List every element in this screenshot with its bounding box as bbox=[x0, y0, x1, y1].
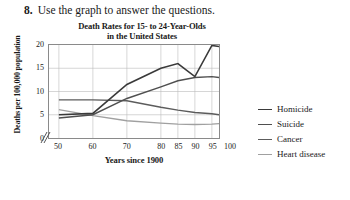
y-tick-label-5: 5 bbox=[22, 110, 44, 119]
legend-swatch-suicide bbox=[258, 124, 272, 125]
plot-area bbox=[48, 44, 220, 139]
worksheet-figure-page: 8.Use the graph to answer the questions.… bbox=[0, 0, 350, 200]
y-tick-label-15: 15 bbox=[22, 63, 44, 72]
legend-label-suicide: Suicide bbox=[277, 120, 304, 129]
x-axis-title: Years since 1900 bbox=[48, 155, 220, 165]
question-number: 8. bbox=[24, 4, 33, 16]
legend-label-cancer: Cancer bbox=[277, 135, 302, 144]
legend-label-homicide: Homicide bbox=[277, 105, 313, 114]
legend-swatch-cancer bbox=[258, 139, 272, 140]
chart-legend: Homicide Suicide Cancer Heart disease bbox=[258, 102, 325, 162]
x-tick-label-100: 100 bbox=[219, 142, 241, 151]
y-tick-label-10: 10 bbox=[22, 87, 44, 96]
legend-label-heart-disease: Heart disease bbox=[277, 150, 325, 159]
question-line: 8.Use the graph to answer the questions. bbox=[24, 3, 215, 17]
y-axis-title: Deaths per 100,000 population bbox=[13, 25, 22, 145]
chart-title-line-2: in the United States bbox=[52, 31, 232, 41]
x-tick-label-70: 70 bbox=[116, 142, 138, 151]
x-tick-label-60: 60 bbox=[81, 142, 103, 151]
legend-item-homicide: Homicide bbox=[258, 102, 325, 117]
chart-title-line-1: Death Rates for 15- to 24-Year-Olds bbox=[52, 21, 232, 31]
legend-swatch-homicide bbox=[258, 109, 272, 110]
y-tick-label-20: 20 bbox=[22, 40, 44, 49]
chart-figure: Death Rates for 15- to 24-Year-Olds in t… bbox=[0, 18, 350, 200]
chart-svg bbox=[49, 45, 219, 138]
legend-item-heart-disease: Heart disease bbox=[258, 147, 325, 162]
question-text: Use the graph to answer the questions. bbox=[38, 4, 215, 16]
legend-item-suicide: Suicide bbox=[258, 117, 325, 132]
chart-title: Death Rates for 15- to 24-Year-Olds in t… bbox=[52, 21, 232, 41]
legend-swatch-heart-disease bbox=[258, 154, 272, 155]
x-tick-label-50: 50 bbox=[47, 142, 69, 151]
legend-item-cancer: Cancer bbox=[258, 132, 325, 147]
